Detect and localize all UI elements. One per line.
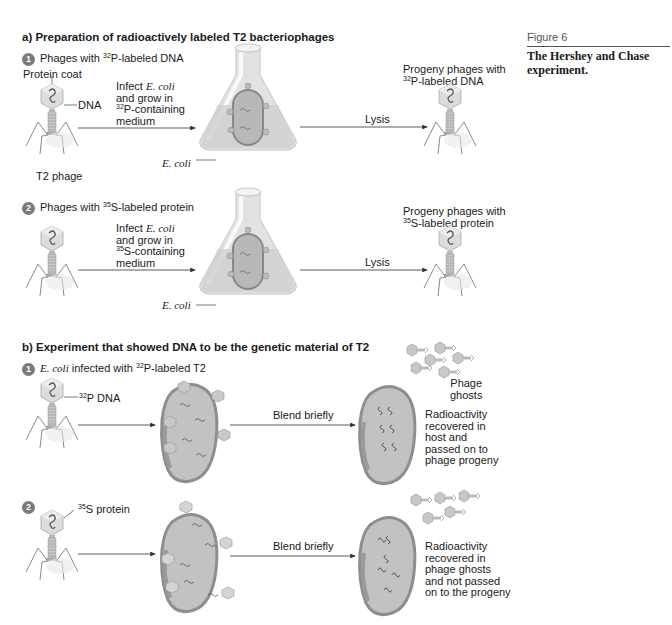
host-cell-icon	[360, 386, 415, 483]
phage-ghosts-icons	[411, 490, 480, 524]
flask-icon	[200, 44, 297, 150]
host-cell-icon	[360, 517, 415, 614]
t2-phage-icon	[26, 378, 78, 448]
flask-icon	[200, 188, 297, 294]
t2-phage-icon	[26, 226, 78, 296]
t2-phage-icon	[26, 510, 78, 580]
progeny-phage-icon	[424, 84, 476, 154]
progeny-phage-icon	[424, 226, 476, 296]
t2-phage-icon	[26, 84, 78, 154]
diagram-artwork	[0, 0, 672, 625]
infected-cell-icon	[162, 384, 217, 481]
phage-ghosts-icons	[407, 342, 474, 378]
